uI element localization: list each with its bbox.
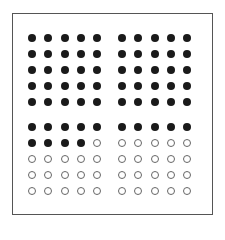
empty-dot-icon [183, 155, 191, 163]
empty-dot-icon [61, 155, 69, 163]
empty-dot-icon [167, 155, 175, 163]
empty-dot-icon [151, 171, 159, 179]
filled-dot-icon [151, 82, 159, 90]
empty-dot-icon [77, 155, 85, 163]
empty-dot-icon [93, 139, 101, 147]
filled-dot-icon [77, 50, 85, 58]
filled-dot-icon [151, 34, 159, 42]
empty-dot-icon [167, 187, 175, 195]
filled-dot-icon [77, 34, 85, 42]
empty-dot-icon [77, 187, 85, 195]
empty-dot-icon [61, 187, 69, 195]
filled-dot-icon [77, 66, 85, 74]
filled-dot-icon [28, 50, 36, 58]
filled-dot-icon [118, 66, 126, 74]
empty-dot-icon [44, 171, 52, 179]
empty-dot-icon [151, 155, 159, 163]
filled-dot-icon [167, 34, 175, 42]
filled-dot-icon [61, 139, 69, 147]
empty-dot-icon [167, 171, 175, 179]
filled-dot-icon [118, 50, 126, 58]
filled-dot-icon [167, 66, 175, 74]
filled-dot-icon [44, 98, 52, 106]
empty-dot-icon [118, 139, 126, 147]
filled-dot-icon [167, 98, 175, 106]
filled-dot-icon [61, 82, 69, 90]
filled-dot-icon [93, 123, 101, 131]
filled-dot-icon [183, 98, 191, 106]
filled-dot-icon [44, 50, 52, 58]
filled-dot-icon [28, 66, 36, 74]
filled-dot-icon [28, 139, 36, 147]
filled-dot-icon [61, 66, 69, 74]
filled-dot-icon [134, 34, 142, 42]
filled-dot-icon [134, 98, 142, 106]
filled-dot-icon [44, 139, 52, 147]
filled-dot-icon [183, 82, 191, 90]
filled-dot-icon [44, 34, 52, 42]
filled-dot-icon [151, 66, 159, 74]
dot-block-bottom-left [28, 123, 101, 195]
empty-dot-icon [134, 171, 142, 179]
filled-dot-icon [77, 82, 85, 90]
filled-dot-icon [134, 50, 142, 58]
empty-dot-icon [93, 187, 101, 195]
filled-dot-icon [77, 139, 85, 147]
filled-dot-icon [93, 82, 101, 90]
empty-dot-icon [118, 187, 126, 195]
filled-dot-icon [183, 123, 191, 131]
filled-dot-icon [151, 98, 159, 106]
empty-dot-icon [183, 139, 191, 147]
empty-dot-icon [44, 187, 52, 195]
filled-dot-icon [183, 66, 191, 74]
filled-dot-icon [167, 123, 175, 131]
filled-dot-icon [134, 82, 142, 90]
filled-dot-icon [134, 123, 142, 131]
filled-dot-icon [151, 123, 159, 131]
filled-dot-icon [77, 98, 85, 106]
empty-dot-icon [93, 171, 101, 179]
empty-dot-icon [167, 139, 175, 147]
filled-dot-icon [183, 34, 191, 42]
filled-dot-icon [61, 34, 69, 42]
filled-dot-icon [118, 82, 126, 90]
filled-dot-icon [61, 98, 69, 106]
filled-dot-icon [44, 66, 52, 74]
empty-dot-icon [28, 187, 36, 195]
empty-dot-icon [151, 187, 159, 195]
filled-dot-icon [77, 123, 85, 131]
filled-dot-icon [28, 98, 36, 106]
filled-dot-icon [167, 82, 175, 90]
filled-dot-icon [28, 123, 36, 131]
filled-dot-icon [93, 98, 101, 106]
filled-dot-icon [151, 50, 159, 58]
empty-dot-icon [93, 155, 101, 163]
filled-dot-icon [61, 50, 69, 58]
empty-dot-icon [118, 171, 126, 179]
empty-dot-icon [134, 139, 142, 147]
filled-dot-icon [44, 123, 52, 131]
filled-dot-icon [93, 50, 101, 58]
empty-dot-icon [134, 155, 142, 163]
empty-dot-icon [183, 171, 191, 179]
filled-dot-icon [93, 34, 101, 42]
filled-dot-icon [61, 123, 69, 131]
empty-dot-icon [28, 155, 36, 163]
dot-block-bottom-right [118, 123, 191, 195]
empty-dot-icon [183, 187, 191, 195]
filled-dot-icon [183, 50, 191, 58]
dot-block-top-left [28, 34, 101, 106]
empty-dot-icon [151, 139, 159, 147]
filled-dot-icon [167, 50, 175, 58]
empty-dot-icon [134, 187, 142, 195]
empty-dot-icon [77, 171, 85, 179]
filled-dot-icon [28, 34, 36, 42]
empty-dot-icon [28, 171, 36, 179]
filled-dot-icon [93, 66, 101, 74]
empty-dot-icon [44, 155, 52, 163]
filled-dot-icon [44, 82, 52, 90]
empty-dot-icon [61, 171, 69, 179]
dot-block-top-right [118, 34, 191, 106]
filled-dot-icon [118, 34, 126, 42]
filled-dot-icon [118, 98, 126, 106]
